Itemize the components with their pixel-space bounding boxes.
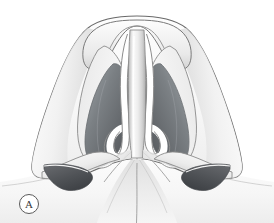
nasal-base-illustration: A — [0, 0, 274, 223]
philtral-midline-crease — [137, 163, 138, 223]
panel-label-letter: A — [25, 198, 33, 210]
columella — [128, 30, 145, 158]
panel-label: A — [20, 195, 39, 214]
figure-container: A Basal view of the nose Nasal cartilage… — [0, 0, 274, 223]
columella-highlight — [133, 36, 134, 156]
